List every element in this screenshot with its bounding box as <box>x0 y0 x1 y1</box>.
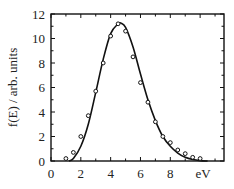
data-point <box>64 157 68 161</box>
data-point <box>71 151 75 155</box>
data-point <box>183 152 187 156</box>
svg-text:4: 4 <box>39 105 46 120</box>
data-point <box>124 29 128 33</box>
svg-text:2: 2 <box>78 166 85 181</box>
svg-text:6: 6 <box>39 80 46 95</box>
svg-text:4: 4 <box>107 166 114 181</box>
svg-text:10: 10 <box>32 31 45 46</box>
y-axis-label: f(E) / arb. units <box>5 48 20 127</box>
data-point <box>191 155 195 159</box>
svg-text:8: 8 <box>167 166 174 181</box>
data-point <box>153 120 157 124</box>
svg-text:12: 12 <box>32 7 45 22</box>
data-point <box>146 100 150 104</box>
data-point <box>86 114 90 118</box>
svg-text:2: 2 <box>39 129 46 144</box>
data-point <box>161 135 165 139</box>
data-point <box>101 61 105 65</box>
data-point <box>139 81 143 85</box>
chart: 02468024681012 eV f(E) / arb. units <box>0 0 234 189</box>
svg-text:0: 0 <box>39 154 46 169</box>
tick-labels: 02468024681012 <box>32 7 174 182</box>
data-point <box>79 135 83 139</box>
axis-ticks <box>51 14 224 161</box>
x-axis-label: eV <box>196 166 212 181</box>
data-point <box>198 157 202 161</box>
data-point <box>168 141 172 145</box>
svg-text:0: 0 <box>48 166 55 181</box>
data-point <box>131 55 135 59</box>
svg-text:6: 6 <box>137 166 144 181</box>
data-points <box>64 22 202 161</box>
fit-curve <box>69 23 208 161</box>
data-point <box>176 148 180 152</box>
data-point <box>109 34 113 38</box>
svg-text:8: 8 <box>39 56 46 71</box>
data-point <box>116 22 120 26</box>
data-point <box>94 89 98 93</box>
plot-frame <box>51 14 224 161</box>
